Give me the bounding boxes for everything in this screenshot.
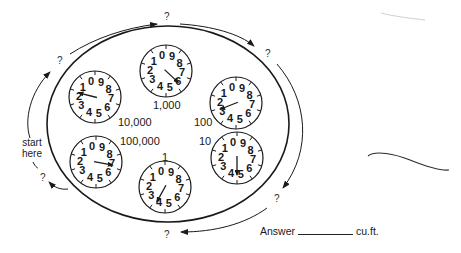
dial-digit: 9 bbox=[168, 166, 174, 178]
answer-unit: cu.ft. bbox=[356, 225, 379, 237]
dial-digit: 9 bbox=[239, 82, 245, 94]
dial-label-100000: 100,000 bbox=[120, 135, 160, 147]
dial-digit: 5 bbox=[238, 168, 244, 180]
dial-100: 0987654321 bbox=[210, 77, 262, 129]
answer-row: Answercu.ft. bbox=[260, 225, 379, 237]
dial-digit: 9 bbox=[169, 50, 175, 62]
answer-label: Answer bbox=[260, 225, 295, 237]
dial-digit: 5 bbox=[96, 107, 102, 119]
question-mark: ? bbox=[57, 55, 63, 66]
dial-1000: 0987654321 bbox=[140, 45, 192, 97]
dial-digit: 1 bbox=[150, 171, 156, 183]
question-mark: ? bbox=[164, 11, 170, 22]
question-mark: ? bbox=[265, 48, 271, 59]
dial-digit: 1 bbox=[81, 146, 87, 158]
dial-digit: 9 bbox=[99, 141, 105, 153]
dial-digit: 1 bbox=[221, 87, 227, 99]
dial-digit: 5 bbox=[167, 81, 173, 93]
dial-digit: 6 bbox=[246, 162, 252, 174]
question-mark: ? bbox=[164, 229, 170, 240]
dial-digit: 5 bbox=[237, 113, 243, 125]
diagram-canvas: 0987654321098765432109876543210987654321… bbox=[0, 0, 461, 253]
dial-10: 0987654321 bbox=[211, 132, 263, 184]
dial-digit: 1 bbox=[80, 81, 86, 93]
dial-label-1: 1 bbox=[162, 151, 168, 163]
dial-digit: 1 bbox=[222, 142, 228, 154]
dial-digit: 0 bbox=[88, 75, 94, 87]
dial-label-10: 10 bbox=[199, 135, 211, 147]
dial-digit: 5 bbox=[97, 172, 103, 184]
dial-digit: 9 bbox=[98, 76, 104, 88]
dial-digit: 4 bbox=[157, 80, 164, 92]
arrow-left-end bbox=[49, 182, 68, 189]
dial-10000: 0987654321 bbox=[69, 71, 121, 123]
dial-digit: 6 bbox=[174, 191, 180, 203]
dial-100000: 0987654321 bbox=[70, 136, 122, 188]
dial-digit: 6 bbox=[245, 107, 251, 119]
start-here-label: start here bbox=[17, 137, 47, 159]
dial-digit: 4 bbox=[228, 167, 235, 179]
meter-diagram: 0987654321098765432109876543210987654321… bbox=[0, 0, 461, 253]
dial-label-1000: 1,000 bbox=[153, 99, 181, 111]
dial-digit: 0 bbox=[229, 81, 235, 93]
dial-digit: 0 bbox=[89, 140, 95, 152]
dial-digit: 6 bbox=[104, 101, 110, 113]
arrow-start-down bbox=[33, 162, 38, 168]
question-mark: ? bbox=[40, 172, 46, 183]
scan-mark bbox=[381, 13, 425, 20]
dial-digit: 1 bbox=[151, 55, 157, 67]
answer-blank-input[interactable] bbox=[298, 225, 353, 235]
dial-label-100: 100 bbox=[194, 116, 212, 128]
dial-digit: 0 bbox=[158, 165, 164, 177]
scan-mark bbox=[368, 153, 449, 170]
question-mark: ? bbox=[274, 193, 280, 204]
dial-digit: 0 bbox=[159, 49, 165, 61]
dial-label-10000: 10,000 bbox=[118, 116, 152, 128]
dial-digit: 4 bbox=[87, 171, 94, 183]
dial-digit: 4 bbox=[86, 106, 93, 118]
dial-digit: 5 bbox=[166, 197, 172, 209]
arrow-right-down bbox=[277, 64, 303, 188]
dial-1: 0987654321 bbox=[139, 161, 191, 213]
dial-digit: 6 bbox=[105, 166, 111, 178]
dial-digit: 9 bbox=[240, 137, 246, 149]
dial-digit: 0 bbox=[230, 136, 236, 148]
dial-digit: 4 bbox=[227, 112, 234, 124]
